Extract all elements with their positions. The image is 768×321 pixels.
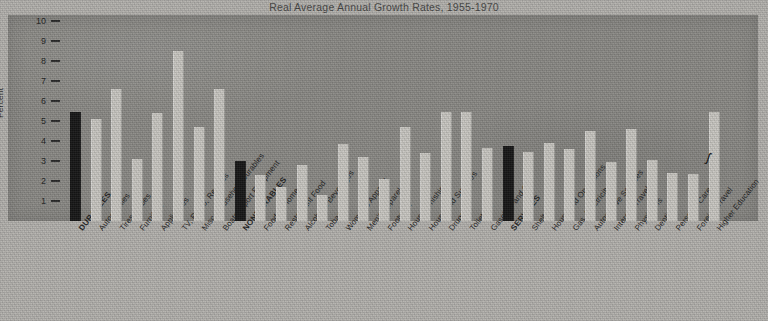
- y-axis-tick-label: 3: [34, 155, 46, 167]
- y-axis-tick-label: 6: [34, 95, 46, 107]
- y-axis-tick: 10: [30, 15, 60, 27]
- bar-alcoholic-beverages: [297, 165, 308, 221]
- bar-men-s-apparel: [358, 157, 369, 221]
- y-axis-tick: 8: [30, 55, 60, 67]
- bar-tires-tubes: [111, 89, 122, 221]
- bar-restaurant-food: [276, 187, 287, 221]
- y-axis-tick: 1: [30, 195, 60, 207]
- bar-services: [503, 146, 514, 221]
- bar-food-at-home: [255, 175, 266, 221]
- y-axis-tick-label: 8: [34, 55, 46, 67]
- bar-higher-education: [709, 112, 720, 221]
- bar-household-supplies: [420, 153, 431, 221]
- y-axis-tick-mark: [51, 200, 60, 202]
- bar-physicians: [626, 129, 637, 221]
- y-axis-tick: 9: [30, 35, 60, 47]
- bar-boats-sport-equipment: [214, 89, 225, 221]
- bar-misc-household-durables: [194, 127, 205, 221]
- bar-nondurables: [235, 161, 246, 221]
- y-axis-tick-mark: [51, 160, 60, 162]
- y-axis-tick-label: 9: [34, 35, 46, 47]
- bar-foreign-travel: [688, 174, 699, 221]
- y-axis-tick-mark: [51, 140, 60, 142]
- bar-toiletries: [461, 112, 472, 221]
- bar-dentists: [647, 160, 658, 221]
- y-axis-tick-label: 7: [34, 75, 46, 87]
- y-axis-tick: 3: [30, 155, 60, 167]
- y-axis-tick-label: 10: [34, 15, 46, 27]
- bar-drugs: [441, 112, 452, 221]
- y-axis-tick-mark: [51, 120, 60, 122]
- y-axis-tick: 2: [30, 175, 60, 187]
- bar-intercity-travel: [606, 162, 617, 221]
- y-axis-tick-mark: [51, 180, 60, 182]
- y-axis-tick: 4: [30, 135, 60, 147]
- bar-furniture: [132, 159, 143, 221]
- bar-gas-electricity: [564, 149, 575, 221]
- y-axis-tick: 5: [30, 115, 60, 127]
- y-axis-tick-mark: [51, 100, 60, 102]
- x-axis-labels: DURABLESAutomobilesTires, TubesFurniture…: [0, 221, 768, 321]
- bar-tv-radio-records: [173, 51, 184, 221]
- bar-personal-care: [667, 173, 678, 221]
- bar-appliances: [152, 113, 163, 221]
- y-axis-tick-mark: [51, 40, 60, 42]
- y-axis-tick-mark: [51, 80, 60, 82]
- chart-title: Real Average Annual Growth Rates, 1955-1…: [0, 0, 768, 15]
- y-axis-tick-label: 1: [34, 195, 46, 207]
- bar-women-s-apparel: [338, 144, 349, 221]
- bar-gasoline-and-oil: [482, 148, 493, 221]
- y-axis-label: Percent: [0, 88, 5, 118]
- bar-household-operations: [544, 143, 555, 221]
- y-axis-tick: 6: [30, 95, 60, 107]
- y-axis-tick-mark: [51, 60, 60, 62]
- y-axis-tick-label: 5: [34, 115, 46, 127]
- bar-tobacco: [317, 195, 328, 221]
- bar-durables: [70, 112, 81, 221]
- bar-housefurnishings: [400, 127, 411, 221]
- bar-automobiles: [91, 119, 102, 221]
- y-axis-tick: 7: [30, 75, 60, 87]
- y-axis-tick-label: 4: [34, 135, 46, 147]
- bar-automotive-services: [585, 131, 596, 221]
- y-axis-tick-label: 2: [34, 175, 46, 187]
- bar-footwear: [379, 179, 390, 221]
- bar-shelter: [523, 152, 534, 221]
- y-axis-tick-mark: [51, 20, 60, 22]
